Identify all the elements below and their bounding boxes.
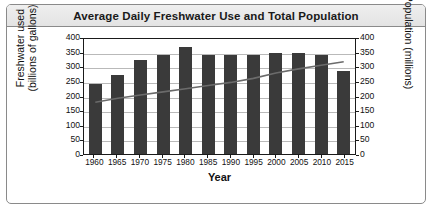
y-tickmark-right-150 [356,111,359,112]
y-tickmark-right-300 [356,67,359,68]
y-tick-right-250: 250 [360,77,388,86]
x-tickmark-1970 [139,155,140,158]
x-tickmark-1960 [93,155,94,158]
y-tick-left-0: 0 [52,150,80,159]
x-tickmark-1980 [184,155,185,158]
x-tickmark-2010 [321,155,322,158]
y-axis-right-title: Population (millions) [403,0,415,103]
population-line [95,62,343,103]
y-tick-left-300: 300 [52,62,80,71]
y-tickmark-right-250 [356,82,359,83]
y-tickmark-left-0 [80,155,83,156]
chart-title-band: Average Daily Freshwater Use and Total P… [7,5,425,27]
x-tickmark-1965 [116,155,117,158]
x-tickmark-2015 [344,155,345,158]
chart-figure: Average Daily Freshwater Use and Total P… [0,0,432,210]
y-tickmark-right-400 [356,38,359,39]
x-tickmark-2005 [298,155,299,158]
y-tick-right-50: 50 [360,135,388,144]
y-tick-left-200: 200 [52,92,80,101]
x-axis-title: Year [83,171,356,183]
y-tick-right-400: 400 [360,33,388,42]
y-axis-left-title-line1: Freshwater used [14,0,26,109]
y-tick-right-150: 150 [360,106,388,115]
x-tickmark-1990 [230,155,231,158]
x-tickmark-1985 [207,155,208,158]
y-tick-right-300: 300 [360,62,388,71]
y-tick-left-350: 350 [52,48,80,57]
y-tick-left-150: 150 [52,106,80,115]
y-axis-left-title: Freshwater used (billions of gallons) [14,0,38,109]
y-tick-right-0: 0 [360,150,388,159]
x-tickmark-2000 [275,155,276,158]
y-tick-left-100: 100 [52,121,80,130]
y-tick-right-100: 100 [360,121,388,130]
x-tickmark-1995 [253,155,254,158]
y-tick-left-400: 400 [52,33,80,42]
y-axis-left-title-line2: (billions of gallons) [26,0,38,109]
x-tick-2015: 2015 [330,158,360,166]
y-tick-right-350: 350 [360,48,388,57]
x-tickmark-1975 [162,155,163,158]
y-tick-right-200: 200 [360,92,388,101]
y-tickmark-right-50 [356,140,359,141]
population-line-series [84,39,355,154]
y-tickmark-right-100 [356,126,359,127]
y-tick-left-250: 250 [52,77,80,86]
chart-title: Average Daily Freshwater Use and Total P… [73,10,358,22]
y-tickmark-right-0 [356,155,359,156]
y-tickmark-right-350 [356,53,359,54]
y-tick-left-50: 50 [52,135,80,144]
y-tickmark-right-200 [356,97,359,98]
plot-area [83,38,356,155]
